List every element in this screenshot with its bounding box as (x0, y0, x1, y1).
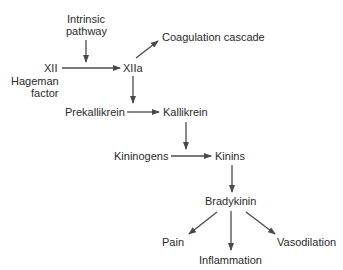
pain-label: Pain (162, 236, 184, 248)
vasodilation-label: Vasodilation (277, 236, 336, 248)
bradykinin-label: Bradykinin (205, 195, 256, 207)
prekallikrein-label: Prekallikrein (65, 106, 125, 118)
arrow-xiia-to-coagulation (136, 41, 158, 58)
intrinsic-pathway-label-line1: Intrinsic (67, 13, 105, 25)
arrow-bradykinin-to-vasodilation (246, 212, 275, 234)
hageman-factor-label-line2: factor (31, 87, 59, 99)
xiia-label: XIIa (123, 62, 143, 74)
intrinsic-pathway-label-line2: pathway (66, 25, 107, 37)
kallikrein-kinin-diagram: Intrinsic pathway XII Hageman factor XII… (0, 0, 343, 270)
inflammation-label: Inflammation (199, 254, 262, 266)
arrow-bradykinin-to-pain (189, 212, 217, 234)
xii-label: XII (44, 62, 57, 74)
kininogens-label: Kininogens (114, 150, 168, 162)
kinins-label: Kinins (215, 150, 245, 162)
kallikrein-label: Kallikrein (163, 106, 208, 118)
coagulation-cascade-label: Coagulation cascade (162, 31, 265, 43)
hageman-factor-label-line1: Hageman (11, 75, 59, 87)
